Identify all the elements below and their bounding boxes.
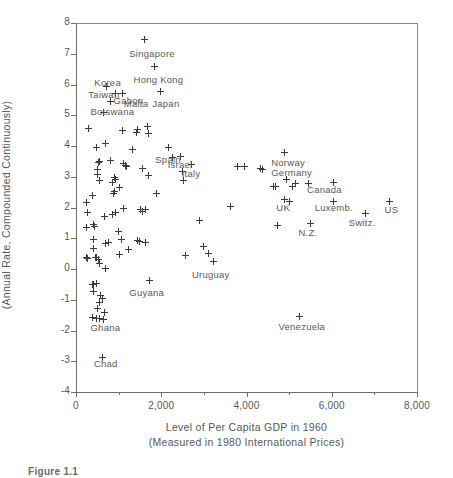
data-point (116, 251, 123, 258)
data-point (110, 190, 117, 197)
data-point (101, 213, 108, 220)
data-point (145, 130, 152, 137)
data-point (234, 163, 241, 170)
y-tick (71, 361, 76, 362)
y-tick-label: -1 (48, 293, 70, 304)
data-point (95, 159, 102, 166)
x-tick-minor (119, 392, 120, 395)
data-point (93, 280, 100, 287)
point-label-luxemb: Luxemb. (315, 202, 353, 213)
y-tick (71, 85, 76, 86)
point-label-guyana: Guyana (129, 287, 164, 298)
data-point (205, 250, 212, 257)
y-tick-label: 5 (48, 108, 70, 119)
x-tick (161, 392, 162, 397)
point-label-singapore: Singapore (129, 48, 175, 59)
y-tick (71, 238, 76, 239)
data-point (274, 222, 281, 229)
x-axis-title: Level of Per Capita GDP in 1960 (Measure… (76, 420, 417, 450)
data-point (227, 203, 234, 210)
x-tick-minor (374, 392, 375, 395)
point-label-hong-kong: Hong Kong (134, 74, 184, 85)
point-label-venezuela: Venezuela (278, 321, 325, 332)
data-point-singapore (141, 36, 148, 43)
point-label-switz: Switz. (349, 217, 376, 228)
data-point (153, 190, 160, 197)
y-tick-label: 6 (48, 78, 70, 89)
x-tick (417, 392, 418, 397)
data-point (107, 157, 114, 164)
data-point (196, 217, 203, 224)
plot-right-border (417, 23, 418, 393)
y-axis-title: Percentage Growth Rate of Per Capita GDP… (14, 30, 48, 380)
y-tick-label: 4 (48, 139, 70, 150)
data-point-spain (165, 144, 172, 151)
y-tick (71, 177, 76, 178)
x-tick-label: 0 (73, 400, 79, 411)
data-point (96, 177, 103, 184)
x-tick-minor (289, 392, 290, 395)
data-point (91, 223, 98, 230)
y-tick (71, 208, 76, 209)
x-tick (332, 392, 333, 397)
data-point-switz (362, 210, 369, 217)
point-label-canada: Canada (307, 184, 342, 195)
y-tick (71, 54, 76, 55)
data-point-hong-kong (151, 63, 158, 70)
point-label-chad: Chad (94, 358, 118, 369)
y-tick-label: 0 (48, 262, 70, 273)
y-tick (71, 300, 76, 301)
y-tick-label: -4 (48, 385, 70, 396)
point-label-us: US (385, 204, 399, 215)
data-point (102, 265, 109, 272)
x-tick-label: 8,000 (404, 400, 430, 411)
data-point (123, 163, 130, 170)
data-point (120, 205, 127, 212)
plot-top-border (76, 23, 417, 24)
data-point (83, 199, 90, 206)
data-point (139, 208, 146, 215)
data-point (109, 179, 116, 186)
point-label-n-z: N.Z. (299, 227, 318, 238)
y-tick (71, 23, 76, 24)
data-point (84, 255, 91, 262)
data-point-guyana (146, 277, 153, 284)
y-tick (71, 331, 76, 332)
y-tick (71, 269, 76, 270)
y-tick (71, 115, 76, 116)
data-point-norway (281, 149, 288, 156)
point-label-gabon: Gabon (114, 95, 144, 106)
data-point (272, 183, 279, 190)
data-point (94, 305, 101, 312)
y-axis-title-line2: (Annual Rate, Compounded Continuously) (0, 101, 12, 310)
point-label-korea: Korea (94, 77, 121, 88)
x-tick-label: 6,000 (319, 400, 345, 411)
data-point (289, 183, 296, 190)
data-point (145, 172, 152, 179)
point-label-germany: Germany (271, 167, 312, 178)
data-point (133, 129, 140, 136)
data-point (85, 125, 92, 132)
point-label-botswana: Botswana (90, 106, 134, 117)
data-point (90, 288, 97, 295)
x-axis-title-line2: (Measured in 1980 International Prices) (149, 436, 345, 448)
x-axis-title-line1: Level of Per Capita GDP in 1960 (166, 421, 327, 433)
data-point (102, 240, 109, 247)
point-label-japan: Japan (152, 98, 179, 109)
y-tick-label: 2 (48, 201, 70, 212)
figure-caption: Figure 1.1 (28, 466, 78, 478)
x-tick-label: 4,000 (233, 400, 259, 411)
data-point (89, 192, 96, 199)
data-point (102, 140, 109, 147)
data-point (93, 144, 100, 151)
data-point (129, 146, 136, 153)
data-point (125, 246, 132, 253)
x-tick-minor (204, 392, 205, 395)
y-tick-label: -3 (48, 354, 70, 365)
data-point (182, 252, 189, 259)
x-tick-label: 2,000 (148, 400, 174, 411)
y-tick-label: 3 (48, 170, 70, 181)
data-point (142, 239, 149, 246)
data-point (119, 127, 126, 134)
y-tick-label: 7 (48, 47, 70, 58)
